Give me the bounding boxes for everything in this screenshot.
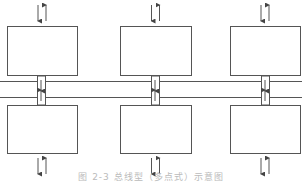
node-box-bottom-2 xyxy=(121,106,192,154)
node-box-top-2 xyxy=(121,27,192,76)
node-box-bottom-1 xyxy=(8,106,78,154)
figure-caption: 图 2-3 总线型（多点式）示意图 xyxy=(0,170,302,183)
bus-topology-diagram xyxy=(0,0,302,184)
node-box-top-1 xyxy=(8,27,78,76)
node-box-top-3 xyxy=(231,27,301,76)
node-box-bottom-3 xyxy=(231,106,301,154)
